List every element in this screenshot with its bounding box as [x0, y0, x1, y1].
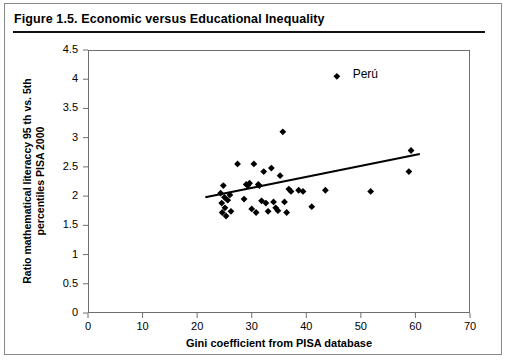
- y-tick-label: 4.5: [44, 43, 78, 55]
- y-tick-label: 1: [44, 248, 78, 260]
- x-tick-label: 70: [455, 320, 485, 332]
- x-tick-label: 40: [291, 320, 321, 332]
- y-tick-label: 2.5: [44, 160, 78, 172]
- x-tick-label: 20: [182, 320, 212, 332]
- x-tick-label: 10: [128, 320, 158, 332]
- x-tick-label: 50: [346, 320, 376, 332]
- figure-screenshot: Figure 1.5. Economic versus Educational …: [0, 0, 510, 361]
- x-tick-label: 0: [73, 320, 103, 332]
- y-axis-title: Ratio mathematical literaccy 95 th vs. 5…: [21, 66, 47, 296]
- y-tick-label: 2: [44, 189, 78, 201]
- title-divider: [13, 31, 485, 33]
- y-tick-label: 3.5: [44, 101, 78, 113]
- annotation-label: Perú: [353, 67, 378, 81]
- y-tick-label: 4: [44, 72, 78, 84]
- x-tick-label: 30: [237, 320, 267, 332]
- y-tick-label: 1.5: [44, 218, 78, 230]
- x-tick-label: 60: [400, 320, 430, 332]
- figure-title: Figure 1.5. Economic versus Educational …: [14, 12, 484, 26]
- plot-area: [88, 50, 470, 313]
- y-tick-label: 3: [44, 131, 78, 143]
- y-tick-label: 0: [44, 306, 78, 318]
- x-axis-title: Gini coefficient from PISA database: [88, 337, 470, 349]
- y-tick-label: 0.5: [44, 277, 78, 289]
